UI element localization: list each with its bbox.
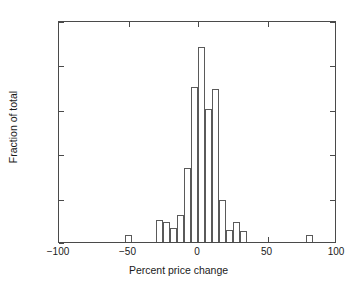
histogram-bar	[125, 235, 132, 242]
histogram-bars	[59, 22, 335, 242]
histogram-bar	[212, 89, 219, 242]
histogram-bar	[240, 231, 247, 242]
x-tick-label-1: −50	[119, 247, 136, 257]
histogram-bar	[184, 168, 191, 242]
x-axis-title: Percent price change	[0, 264, 357, 276]
y-axis-title: Fraction of total	[7, 67, 19, 187]
x-tick-label-2: 0	[194, 247, 200, 257]
histogram-bar	[306, 235, 313, 242]
histogram-bar	[170, 228, 177, 242]
x-tick-label-3: 50	[261, 247, 272, 257]
x-tick-label-0: −100	[47, 247, 70, 257]
histogram-bar	[191, 87, 198, 242]
histogram-bar	[198, 47, 205, 242]
histogram-bar	[226, 230, 233, 242]
y-tick-mark	[59, 243, 64, 244]
plot-area	[58, 21, 336, 243]
x-tick-label-4: 100	[328, 247, 345, 257]
histogram-figure: 0 0.05 0.1 0.15 0.2 0.25 −100 −50 0 50 1…	[0, 0, 357, 292]
histogram-bar	[156, 220, 163, 242]
histogram-bar	[177, 215, 184, 242]
histogram-bar	[163, 222, 170, 242]
histogram-bar	[219, 200, 226, 242]
histogram-bar	[233, 222, 240, 242]
histogram-bar	[205, 109, 212, 242]
